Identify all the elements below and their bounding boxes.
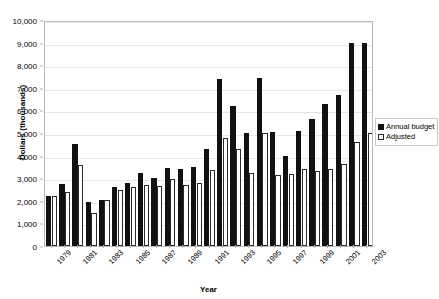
bar-annual-budget [46,196,51,246]
bar-adjusted [368,133,373,246]
bar-group [204,22,215,246]
y-tick-label: 3,000 [17,175,37,184]
bar-adjusted [315,171,320,246]
bar-group [165,22,176,246]
bar-annual-budget [138,173,143,246]
x-tick-mark [261,245,262,248]
y-tick-mark [40,66,43,67]
y-tick-label: 8,000 [17,62,37,71]
x-tick-label: 1981 [81,248,99,266]
x-tick-mark [90,245,91,248]
plot-area [44,21,373,247]
bar-group [191,22,202,246]
bar-adjusted [131,187,136,246]
bar-group [336,22,347,246]
x-axis-ticks: 1979198119831985198719891991199319951997… [44,248,373,284]
x-tick-mark [169,245,170,248]
bar-adjusted [183,185,188,246]
x-tick-label: 1991 [212,248,230,266]
x-tick-mark [353,245,354,248]
bar-group [322,22,333,246]
bar-adjusted [118,190,123,247]
bar-adjusted [65,192,70,246]
bar-annual-budget [86,202,91,246]
bar-annual-budget [59,184,64,246]
bar-annual-budget [322,104,327,246]
bar-annual-budget [283,156,288,246]
bar-annual-budget [125,183,130,246]
bar-group [230,22,241,246]
x-tick-label: 1985 [133,248,151,266]
x-tick-label: 1997 [291,248,309,266]
x-tick-label: 2001 [344,248,362,266]
x-tick-mark [327,245,328,248]
x-tick-mark [235,245,236,248]
y-tick-mark [40,43,43,44]
bar-adjusted [341,164,346,246]
x-tick-mark [51,245,52,248]
bar-adjusted [262,133,267,246]
bar-adjusted [223,138,228,246]
bar-annual-budget [309,119,314,246]
bar-group [112,22,123,246]
bar-group [151,22,162,246]
y-tick-label: 0 [33,243,37,252]
x-tick-mark [64,245,65,248]
bar-annual-budget [178,169,183,246]
x-tick-mark [103,245,104,248]
bar-annual-budget [244,133,249,246]
bar-adjusted [249,173,254,246]
bar-adjusted [354,142,359,246]
y-tick-mark [40,88,43,89]
x-tick-mark [301,245,302,248]
legend-label: Annual budget [386,122,434,131]
x-tick-mark [340,245,341,248]
bar-adjusted [275,175,280,246]
bar-annual-budget [204,149,209,246]
x-tick-label: 1989 [186,248,204,266]
bar-annual-budget [349,43,354,246]
hollow-square-icon [378,134,384,140]
x-tick-label: 1995 [265,248,283,266]
bar-group [59,22,70,246]
bar-group [46,22,57,246]
y-tick-label: 1,000 [17,220,37,229]
y-tick-mark [40,21,43,22]
x-tick-mark [182,245,183,248]
bar-group [72,22,83,246]
bar-adjusted [78,165,83,246]
y-tick-label: 4,000 [17,152,37,161]
x-tick-mark [156,245,157,248]
x-tick-mark [130,245,131,248]
bar-chart: Dollars (thousands) 10,0009,0008,0007,00… [0,0,439,299]
legend-entry: Adjusted [378,132,434,141]
x-tick-mark [274,245,275,248]
bar-adjusted [289,174,294,246]
x-tick-mark [209,245,210,248]
bar-adjusted [302,169,307,246]
x-tick-mark [366,245,367,248]
bar-annual-budget [217,79,222,246]
bar-annual-budget [151,178,156,246]
y-tick-mark [40,201,43,202]
bar-group [178,22,189,246]
x-axis-title: Year [44,285,373,294]
y-tick-mark [40,111,43,112]
bar-group [217,22,228,246]
x-tick-mark [195,245,196,248]
y-axis-ticks: 10,0009,0008,0007,0006,0005,0004,0003,00… [0,21,40,247]
bar-group [99,22,110,246]
y-tick-label: 5,000 [17,130,37,139]
y-tick-label: 10,000 [13,17,37,26]
bar-adjusted [104,200,109,246]
x-tick-label: 1987 [160,248,178,266]
x-tick-mark [287,245,288,248]
x-tick-label: 2003 [370,248,388,266]
bar-group [349,22,360,246]
x-tick-mark [77,245,78,248]
bar-adjusted [210,170,215,246]
bar-annual-budget [72,144,77,246]
chart-legend: Annual budgetAdjusted [375,118,438,146]
bar-group [309,22,320,246]
x-tick-mark [248,245,249,248]
